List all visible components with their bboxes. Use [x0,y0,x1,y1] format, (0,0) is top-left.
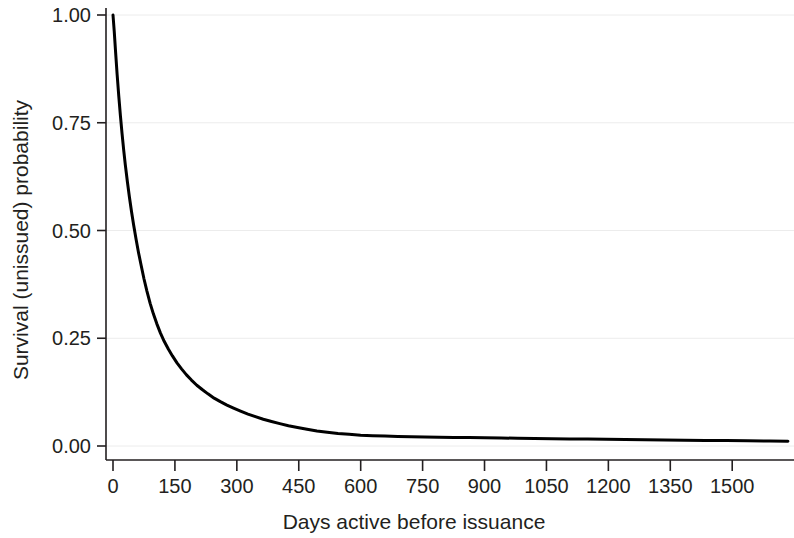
survival-curve-figure: 0.000.250.500.751.00 0150300450600750900… [0,0,794,538]
x-tick-label: 600 [344,475,377,497]
x-tick-label: 1200 [586,475,631,497]
y-axis-title: Survival (unissued) probability [9,99,32,380]
x-tick-label: 1500 [710,475,755,497]
x-tick-label: 750 [406,475,439,497]
x-axis-title: Days active before issuance [283,510,546,533]
x-tick-label: 1050 [524,475,569,497]
x-tick-label: 0 [107,475,118,497]
x-tick-label: 450 [282,475,315,497]
x-tick-label: 300 [220,475,253,497]
y-tick-label: 0.25 [52,327,91,349]
y-tick-label: 1.00 [52,4,91,26]
chart-canvas: 0.000.250.500.751.00 0150300450600750900… [0,0,794,538]
x-tick-label: 900 [468,475,501,497]
y-tick-label: 0.00 [52,435,91,457]
y-tick-label: 0.50 [52,220,91,242]
x-tick-label: 150 [158,475,191,497]
y-tick-label: 0.75 [52,112,91,134]
x-tick-label: 1350 [648,475,693,497]
